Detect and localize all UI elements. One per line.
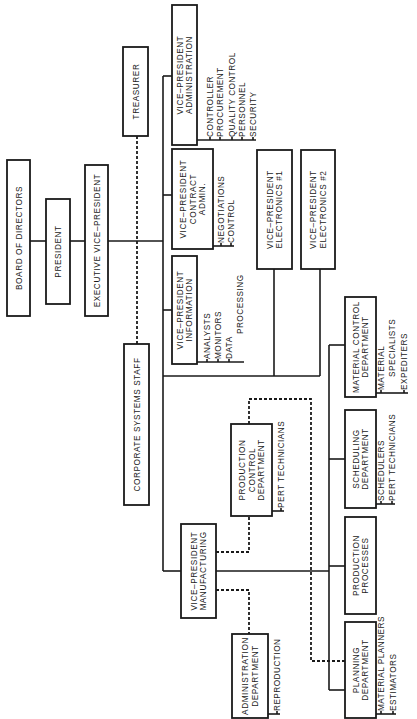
node-label-line: ADMIN. bbox=[198, 183, 207, 215]
node-label-line: PRODUCTION bbox=[352, 535, 361, 596]
sub-item-label: NEGOTIATIONS bbox=[217, 176, 226, 243]
sub-item-label: QUALITY CONTROL bbox=[228, 52, 237, 137]
sub-item-label: SPECIALISTS bbox=[388, 319, 397, 377]
node-label-line: DEPARTMENT bbox=[361, 316, 370, 378]
node-label-line: PLANNING bbox=[352, 647, 361, 694]
sub-item-label: REPRODUCTION bbox=[273, 639, 282, 711]
org-chart: BOARD OF DIRECTORSPRESIDENTEXECUTIVE VIC… bbox=[0, 0, 417, 719]
org-node-planning: PLANNINGDEPARTMENT bbox=[345, 622, 376, 718]
sub-list-admin-dept: REPRODUCTION bbox=[268, 639, 282, 714]
sub-item-label: MONITORS bbox=[214, 311, 223, 359]
node-label-line: ELECTRONICS #1 bbox=[275, 170, 284, 248]
sub-item-label: PERT TECHNICIANS bbox=[277, 421, 286, 508]
org-node-vp-info: VICE–PRESIDENTINFORMATION bbox=[172, 256, 197, 364]
org-node-admin-dept: ADMINISTRATIONDEPARTMENT bbox=[232, 634, 268, 718]
org-node-vp-mfg: VICE–PRESIDENTMANUFACTURING bbox=[181, 524, 216, 618]
sub-list-vp-contract: NEGOTIATIONSCONTROL bbox=[213, 176, 236, 246]
sub-item-label: SECURITY bbox=[249, 92, 258, 137]
node-label-line: BOARD OF DIRECTORS bbox=[15, 186, 24, 290]
node-label-line: EXECUTIVE VICE–PRESIDENT bbox=[93, 174, 102, 308]
sub-list-production-control: PERT TECHNICIANS bbox=[272, 421, 286, 511]
node-label-line: CONTRACT bbox=[189, 174, 198, 224]
node-label-line: ADMINISTRATION bbox=[185, 36, 194, 114]
node-label-line: VICE–PRESIDENT bbox=[176, 36, 185, 115]
org-node-board: BOARD OF DIRECTORS bbox=[7, 160, 30, 316]
sub-item-label: PROCESSING bbox=[236, 274, 245, 334]
node-label-line: CORPORATE SYSTEMS STAFF bbox=[133, 357, 142, 491]
node-label-line: PRESIDENT bbox=[54, 225, 63, 277]
org-node-president: PRESIDENT bbox=[46, 199, 70, 304]
sub-list-vp-info: ANALYSTSMONITORSDATAPROCESSING bbox=[197, 274, 245, 362]
sub-item-label: CONTROLLER bbox=[206, 76, 215, 137]
node-label-line: SCHEDULING bbox=[352, 429, 361, 489]
org-node-exec-vp: EXECUTIVE VICE–PRESIDENT bbox=[85, 165, 108, 316]
sub-item-label: DATA bbox=[225, 336, 234, 359]
node-label-line: DEPARTMENT bbox=[251, 645, 260, 707]
node-label-line: INFORMATION bbox=[185, 278, 194, 341]
org-node-vp-elec2: VICE–PRESIDENTELECTRONICS #2 bbox=[301, 150, 335, 269]
sub-list-scheduling: SCHEDULERSPERT TECHNICIANS bbox=[376, 414, 397, 504]
node-label-line: ADMINISTRATION bbox=[241, 637, 250, 715]
node-label-line: ELECTRONICS #2 bbox=[319, 170, 328, 248]
org-node-scheduling: SCHEDULINGDEPARTMENT bbox=[345, 410, 376, 508]
sub-item-label: PERSONNEL bbox=[238, 82, 247, 137]
node-label-line: DEPARTMENT bbox=[361, 639, 370, 701]
org-node-production-control: PRODUCTIONCONTROLDEPARTMENT bbox=[231, 424, 272, 516]
node-label-line: CONTROL bbox=[248, 448, 257, 492]
org-node-vp-elec1: VICE–PRESIDENTELECTRONICS #1 bbox=[257, 150, 292, 269]
node-label-line: VICE–PRESIDENT bbox=[176, 271, 185, 350]
node-label-line: MATERIAL CONTROL bbox=[352, 301, 361, 393]
dashed-connector bbox=[216, 516, 249, 552]
node-label-line: VICE–PRESIDENT bbox=[309, 170, 318, 249]
sub-item-label: MATERIAL PLANNERS bbox=[377, 616, 386, 711]
dashed-connector bbox=[216, 590, 249, 634]
node-label-line: VICE–PRESIDENT bbox=[266, 170, 275, 249]
sub-list-planning: MATERIAL PLANNERSESTIMATORS bbox=[376, 616, 398, 714]
org-node-corp-systems: CORPORATE SYSTEMS STAFF bbox=[124, 344, 149, 505]
sub-item-label: EXPEDITERS bbox=[400, 333, 409, 390]
org-node-production-processes: PRODUCTIONPROCESSES bbox=[345, 517, 376, 614]
sub-list-material-control: MATERIALSPECIALISTSEXPEDITERS bbox=[376, 319, 409, 393]
node-label-line: DEPARTMENT bbox=[257, 439, 266, 501]
sub-item-label: ANALYSTS bbox=[203, 313, 212, 359]
org-node-material-control: MATERIAL CONTROLDEPARTMENT bbox=[345, 297, 376, 397]
org-node-treasurer: TREASURER bbox=[123, 47, 148, 136]
org-node-vp-admin: VICE–PRESIDENTADMINISTRATION bbox=[172, 5, 197, 145]
sub-list-vp-admin: CONTROLLERPROCUREMENTQUALITY CONTROLPERS… bbox=[197, 52, 258, 140]
node-label-line: PROCESSES bbox=[361, 537, 370, 593]
node-label-line: PRODUCTION bbox=[238, 439, 247, 500]
sub-item-label: PERT TECHNICIANS bbox=[388, 414, 397, 501]
sub-item-label: SCHEDULERS bbox=[377, 440, 386, 501]
node-label-line: MANUFACTURING bbox=[199, 531, 208, 610]
sub-item-label: PROCUREMENT bbox=[216, 67, 225, 137]
sub-item-label: ESTIMATORS bbox=[389, 653, 398, 711]
node-label-line: VICE–PRESIDENT bbox=[179, 160, 188, 239]
org-node-vp-contract: VICE–PRESIDENTCONTRACTADMIN. bbox=[172, 149, 213, 249]
node-label-line: TREASURER bbox=[132, 64, 141, 120]
sub-item-label: MATERIAL bbox=[377, 346, 386, 390]
node-label-line: VICE–PRESIDENT bbox=[190, 532, 199, 611]
node-label-line: DEPARTMENT bbox=[361, 428, 370, 490]
sub-item-label: CONTROL bbox=[227, 199, 236, 243]
